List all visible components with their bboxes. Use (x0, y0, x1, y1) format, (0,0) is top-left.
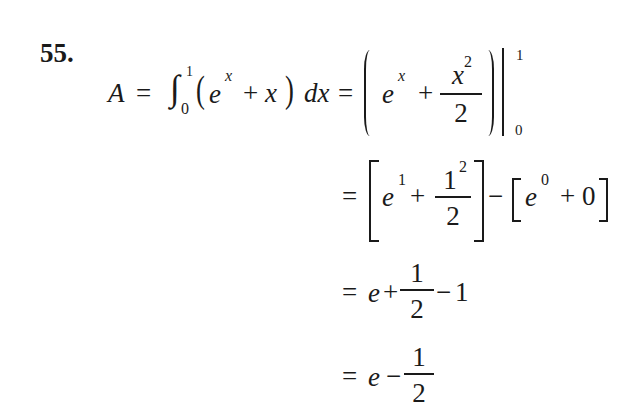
fraction-numerator: 1 (400, 260, 434, 287)
evaluation-lower-limit: 0 (515, 123, 523, 138)
antiderivative-e: e (382, 81, 394, 108)
term-e: e (368, 280, 380, 307)
fraction-numerator: x (434, 62, 482, 89)
fraction-bar (435, 196, 471, 198)
left-bracket-2 (512, 178, 521, 222)
left-bracket-1 (369, 160, 379, 242)
term-e: e (368, 364, 380, 391)
fraction-x-squared-over-2: x 2 2 (440, 60, 482, 130)
minus-sign: − (386, 363, 401, 390)
integrand-e: e (209, 81, 221, 108)
integrand-exponent: x (225, 68, 232, 84)
one: 1 (455, 279, 469, 306)
equals-sign-2: = (338, 80, 353, 107)
term-e: e (525, 184, 537, 211)
evaluation-bar (502, 48, 504, 136)
fraction-one-squared-over-2: 1 2 2 (435, 165, 471, 235)
term-e: e (382, 184, 394, 211)
plus-sign: + (560, 183, 575, 210)
fraction-denominator: 2 (435, 203, 471, 230)
evaluation-upper-limit: 1 (516, 48, 524, 63)
differential-dx: dx (304, 80, 329, 107)
fraction-denominator: 2 (440, 100, 482, 127)
integrand-right-paren: ) (285, 70, 294, 108)
fraction-denominator: 2 (400, 296, 434, 323)
equals-sign: = (342, 279, 357, 306)
term-e-exponent: 1 (398, 172, 406, 188)
minus-sign: − (436, 279, 451, 306)
fraction-bar (440, 93, 482, 95)
integrand-left-paren: ( (196, 70, 205, 108)
integrand-plus: + (243, 80, 258, 107)
antiderivative-right-paren (482, 50, 494, 136)
antiderivative-e-exponent: x (398, 68, 405, 84)
problem-number: 55. (40, 40, 74, 67)
fraction-denominator: 2 (404, 380, 434, 407)
fraction-bar (400, 289, 434, 291)
equals-sign: = (342, 183, 357, 210)
right-bracket-1 (474, 160, 484, 242)
plus-sign: + (410, 183, 425, 210)
fraction-bar (404, 373, 434, 375)
term-e-exponent: 0 (541, 172, 549, 188)
integral-lower-limit: 0 (181, 101, 189, 117)
integrand-x: x (265, 80, 277, 107)
lhs-variable: A (108, 80, 125, 107)
fraction-numerator-exponent: 2 (459, 159, 467, 175)
fraction-numerator-exponent: 2 (464, 54, 472, 70)
fraction-numerator: 1 (404, 344, 434, 371)
equals-sign: = (136, 80, 151, 107)
fraction-one-half: 1 2 (400, 258, 434, 328)
antiderivative-left-paren (364, 50, 376, 136)
zero: 0 (582, 183, 596, 210)
integral-sign: ∫ (170, 70, 180, 106)
minus-sign: − (488, 183, 503, 210)
right-bracket-2 (599, 178, 608, 222)
integral-upper-limit: 1 (186, 65, 193, 79)
equals-sign: = (342, 363, 357, 390)
fraction-one-half: 1 2 (404, 342, 434, 412)
antiderivative-plus: + (418, 80, 433, 107)
plus-sign: + (383, 279, 398, 306)
